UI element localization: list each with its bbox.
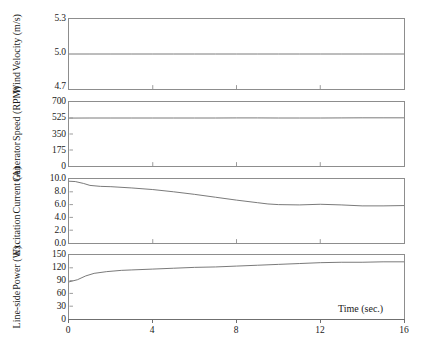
- panel-generator-speed: Generator Speed (RPM) 700 525 350 175 0: [0, 101, 427, 167]
- x-tick-mark: [68, 319, 69, 323]
- y-axis-label-line-2: Speed (RPM): [11, 86, 23, 141]
- x-tick-mark: [152, 319, 153, 323]
- y-tick-label: 0: [36, 315, 66, 325]
- y-tick-label: 4.0: [36, 213, 66, 223]
- y-tick-label: 525: [36, 113, 66, 123]
- y-tick-label: 150: [36, 250, 66, 260]
- x-tick-label: 16: [392, 325, 416, 335]
- panel-wind-velocity: Wind Velocity (m/s) 5.3 5.0 4.7: [0, 18, 427, 90]
- y-tick-labels-wind-velocity: 5.3 5.0 4.7: [32, 18, 66, 90]
- y-tick-label: 2.0: [36, 226, 66, 236]
- y-tick-label: 350: [36, 130, 66, 140]
- y-tick-label: 90: [36, 276, 66, 286]
- x-tick-label: 8: [224, 325, 248, 335]
- y-tick-label: 60: [36, 289, 66, 299]
- y-tick-label: 10.0: [36, 174, 66, 184]
- y-axis-label-line-2: Velocity (m/s): [11, 14, 23, 71]
- y-axis-label-line-1: Line-side: [11, 291, 23, 329]
- y-tick-label: 0.0: [36, 239, 66, 249]
- y-tick-label: 8.0: [36, 187, 66, 197]
- y-axis-label-wind-velocity: Wind Velocity (m/s): [0, 18, 34, 90]
- y-tick-label: 30: [36, 302, 66, 312]
- plot-area-generator-speed: [68, 101, 405, 167]
- y-tick-label: 5.3: [36, 14, 66, 24]
- x-tick-label: 12: [308, 325, 332, 335]
- series-generator-speed: [69, 102, 404, 166]
- x-tick-label: 0: [56, 325, 80, 335]
- y-tick-label: 120: [36, 263, 66, 273]
- plot-area-excitation-current: [68, 178, 405, 244]
- y-tick-label: 175: [36, 146, 66, 156]
- panel-excitation-current: Excitation Current (A) 10.0 8.0 6.0 4.0 …: [0, 178, 427, 244]
- x-axis-title: Time (sec.): [338, 303, 383, 314]
- y-tick-label: 0: [36, 162, 66, 172]
- y-axis-label-line-2: Current (A): [11, 166, 23, 213]
- series-wind-velocity: [69, 19, 404, 89]
- y-tick-labels-line-side-power: 150 120 90 60 30 0: [32, 254, 66, 320]
- x-tick-mark: [404, 319, 405, 323]
- y-tick-label: 700: [36, 97, 66, 107]
- y-tick-label: 5.0: [36, 48, 66, 58]
- y-tick-label: 4.7: [36, 82, 66, 92]
- y-axis-label-line-2: Power (W): [11, 246, 23, 290]
- figure-container: Wind Velocity (m/s) 5.3 5.0 4.7 Genera: [0, 0, 427, 345]
- plot-area-wind-velocity: [68, 18, 405, 90]
- y-axis-label-generator-speed: Generator Speed (RPM): [0, 101, 34, 167]
- y-axis-label-excitation-current: Excitation Current (A): [0, 178, 34, 244]
- x-tick-mark: [320, 319, 321, 323]
- x-tick-label: 4: [140, 325, 164, 335]
- y-tick-labels-excitation-current: 10.0 8.0 6.0 4.0 2.0 0.0: [32, 178, 66, 244]
- series-excitation-current: [69, 179, 404, 243]
- y-tick-label: 6.0: [36, 200, 66, 210]
- y-axis-label-line-side-power: Line-side Power (W): [0, 254, 34, 320]
- y-tick-labels-generator-speed: 700 525 350 175 0: [32, 101, 66, 167]
- x-tick-mark: [236, 319, 237, 323]
